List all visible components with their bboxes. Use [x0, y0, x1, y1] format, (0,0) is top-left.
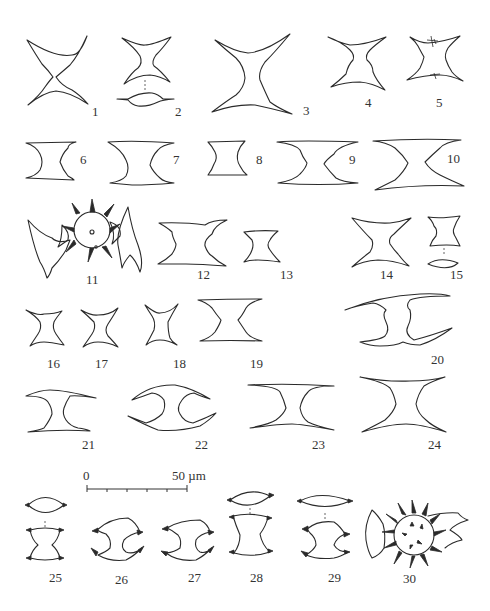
figure-label-20: 20 — [431, 352, 444, 367]
figure-label-28: 28 — [250, 570, 263, 585]
figure-label-8: 8 — [256, 152, 263, 167]
figure-label-21: 21 — [82, 437, 95, 452]
figure-25: 25 — [25, 498, 67, 586]
figure-label-6: 6 — [80, 152, 87, 167]
scale-bar: 0 50 µm — [83, 468, 206, 492]
figure-6: 6 — [26, 142, 87, 180]
figure-label-24: 24 — [428, 437, 442, 452]
scale-bar-end-label: 50 µm — [172, 468, 206, 483]
figure-17: 17 — [81, 308, 118, 371]
scale-bar-start-label: 0 — [83, 468, 90, 483]
figure-label-26: 26 — [115, 572, 129, 587]
figure-9: 9 — [277, 141, 358, 185]
figure-5: 5 — [407, 36, 463, 110]
figure-4: 4 — [328, 37, 386, 110]
figure-label-13: 13 — [280, 267, 293, 282]
figure-2: 2 — [117, 37, 182, 119]
figure-21: 21 — [26, 390, 96, 452]
figure-label-7: 7 — [173, 152, 180, 167]
figure-label-25: 25 — [49, 570, 62, 585]
figure-19: 19 — [198, 299, 263, 371]
figure-label-5: 5 — [436, 95, 443, 110]
figure-16: 16 — [26, 310, 64, 371]
figure-24: 24 — [360, 377, 446, 452]
figure-20: 20 — [345, 294, 452, 367]
figure-label-19: 19 — [250, 356, 263, 371]
figure-label-15: 15 — [450, 267, 463, 282]
figure-27: 27 — [161, 520, 214, 585]
figure-23: 23 — [248, 384, 334, 452]
figure-1: 1 — [27, 36, 99, 119]
figure-label-14: 14 — [380, 267, 394, 282]
figure-label-18: 18 — [173, 356, 186, 371]
figure-11: 11 — [28, 199, 142, 287]
figure-18: 18 — [145, 304, 186, 371]
figure-label-29: 29 — [328, 570, 341, 585]
figure-label-12: 12 — [197, 267, 210, 282]
figure-26: 26 — [91, 518, 144, 587]
figure-15: 15 — [428, 216, 463, 282]
figure-3: 3 — [212, 34, 310, 118]
figure-label-11: 11 — [86, 272, 99, 287]
desmid-plate: 1 2 3 4 5 6 7 8 9 — [0, 0, 490, 611]
figure-label-2: 2 — [175, 104, 182, 119]
figure-label-22: 22 — [195, 437, 208, 452]
figure-label-17: 17 — [95, 356, 109, 371]
figure-12: 12 — [158, 220, 227, 282]
figure-28: 28 — [227, 492, 274, 585]
figure-29: 29 — [297, 496, 353, 586]
figure-label-27: 27 — [188, 570, 202, 585]
figure-label-10: 10 — [447, 151, 460, 166]
figure-8: 8 — [208, 141, 263, 175]
figure-label-4: 4 — [365, 95, 372, 110]
figure-10: 10 — [373, 139, 464, 190]
figure-7: 7 — [108, 141, 180, 185]
figure-label-16: 16 — [47, 356, 61, 371]
figure-label-23: 23 — [312, 437, 325, 452]
figure-14: 14 — [352, 218, 411, 282]
figure-13: 13 — [244, 231, 293, 282]
figure-label-30: 30 — [403, 571, 416, 586]
figure-label-3: 3 — [303, 103, 310, 118]
figure-30: 30 — [366, 500, 468, 586]
figure-label-1: 1 — [92, 104, 99, 119]
figure-label-9: 9 — [349, 152, 356, 167]
figure-22: 22 — [128, 385, 216, 452]
